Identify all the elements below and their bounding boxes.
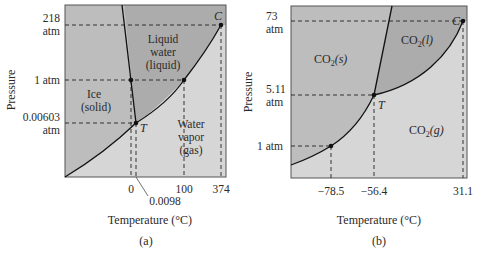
liquid-label: Liquid xyxy=(148,33,179,46)
gas-label: vapor xyxy=(178,131,204,144)
solid-label: Ice xyxy=(87,88,101,100)
y-tick-label: 5.11 xyxy=(266,83,286,95)
panel-caption: (a) xyxy=(139,234,152,248)
x-axis-label: Temperature (°C) xyxy=(337,213,421,227)
y-tick-label: 0.00603 xyxy=(23,111,61,123)
triple-point xyxy=(372,93,377,98)
critical-point xyxy=(219,23,224,28)
y-tick-label: 1 atm xyxy=(257,140,283,152)
y-tick-label: 1 atm xyxy=(34,74,60,86)
melting-point xyxy=(129,78,134,83)
gas-label: Water xyxy=(177,118,204,130)
liquid-label: water xyxy=(150,46,176,58)
liquid-label: CO2(l) xyxy=(401,33,433,49)
y-tick-label: atm xyxy=(43,124,60,136)
solid-label: (solid) xyxy=(81,101,111,114)
x-annotation-label: 0.0098 xyxy=(149,195,181,207)
y-tick-label: atm xyxy=(43,25,60,37)
sublimation-point xyxy=(329,144,334,149)
x-tick-label: −56.4 xyxy=(361,185,388,197)
panel-b-co2-phase-diagram: C T CO2(s) CO2(l) CO2(g) 73 atm 5.11 atm… xyxy=(241,6,473,248)
y-axis-label: Pressure xyxy=(4,70,18,111)
annotation-leader xyxy=(136,177,148,196)
x-axis-label: Temperature (°C) xyxy=(108,213,192,227)
phase-diagrams: C T Liquid water (liquid) Ice (solid) Wa… xyxy=(0,0,479,259)
liquid-label: (liquid) xyxy=(146,59,181,72)
panel-caption: (b) xyxy=(372,234,386,248)
critical-label: C xyxy=(452,14,461,28)
x-tick-label: 374 xyxy=(212,183,230,195)
panel-a-water-phase-diagram: C T Liquid water (liquid) Ice (solid) Wa… xyxy=(4,5,230,248)
x-tick-label: 100 xyxy=(175,183,193,195)
y-tick-label: atm xyxy=(266,96,283,108)
triple-point xyxy=(134,121,139,126)
gas-label: (gas) xyxy=(180,144,203,157)
critical-point xyxy=(461,19,466,24)
critical-label: C xyxy=(214,9,223,23)
x-tick-label: −78.5 xyxy=(318,185,345,197)
y-tick-label: 73 xyxy=(266,10,278,22)
x-tick-label: 31.1 xyxy=(453,185,473,197)
x-tick-label: 0 xyxy=(128,183,134,195)
boiling-point xyxy=(182,78,187,83)
y-axis-label: Pressure xyxy=(241,72,255,113)
y-tick-label: atm xyxy=(266,23,283,35)
y-tick-label: 218 xyxy=(43,12,61,24)
